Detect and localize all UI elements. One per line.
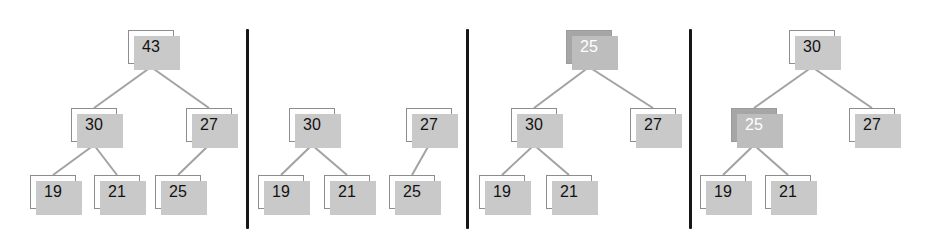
tree-node-21: 21 bbox=[765, 175, 811, 209]
divider-3 bbox=[689, 29, 692, 229]
tree-node-label: 27 bbox=[644, 116, 662, 133]
tree-node-label: 21 bbox=[108, 183, 126, 200]
tree-node-19: 19 bbox=[700, 175, 746, 209]
tree-edge-30-to-19 bbox=[281, 145, 312, 175]
tree-edge-25-to-27 bbox=[589, 67, 653, 108]
tree-node-21: 21 bbox=[94, 175, 140, 209]
tree-node-19: 19 bbox=[258, 175, 304, 209]
tree-node-25-highlighted: 25 bbox=[731, 108, 777, 142]
tree-node-25: 25 bbox=[389, 175, 435, 209]
tree-node-30: 30 bbox=[289, 108, 335, 142]
tree-edge-25-to-21 bbox=[754, 145, 788, 175]
tree-node-label: 30 bbox=[303, 116, 321, 133]
tree-node-30: 30 bbox=[511, 108, 557, 142]
tree-node-30: 30 bbox=[789, 30, 835, 64]
tree-node-label: 25 bbox=[169, 183, 187, 200]
tree-edge-30-to-21 bbox=[94, 145, 117, 175]
tree-node-label: 25 bbox=[745, 116, 763, 133]
tree-edge-30-to-21 bbox=[534, 145, 569, 175]
tree-edge-27-to-25 bbox=[178, 145, 209, 175]
tree-edge-27-to-25 bbox=[412, 145, 429, 175]
tree-node-label: 21 bbox=[779, 183, 797, 200]
divider-2 bbox=[466, 29, 469, 229]
tree-edge-43-to-27 bbox=[151, 67, 209, 108]
tree-edge-25-to-19 bbox=[723, 145, 754, 175]
tree-node-label: 19 bbox=[493, 183, 511, 200]
tree-node-label: 27 bbox=[863, 116, 881, 133]
divider-1 bbox=[246, 29, 249, 229]
tree-node-label: 21 bbox=[338, 183, 356, 200]
tree-node-21: 21 bbox=[324, 175, 370, 209]
tree-edge-30-to-25 bbox=[754, 67, 812, 108]
tree-edge-43-to-30 bbox=[94, 67, 151, 108]
tree-node-label: 30 bbox=[803, 38, 821, 55]
tree-node-label: 30 bbox=[525, 116, 543, 133]
tree-node-27: 27 bbox=[406, 108, 452, 142]
tree-edge-30-to-19 bbox=[53, 145, 94, 175]
tree-node-30: 30 bbox=[71, 108, 117, 142]
tree-node-27: 27 bbox=[186, 108, 232, 142]
tree-node-19: 19 bbox=[30, 175, 76, 209]
tree-node-label: 19 bbox=[44, 183, 62, 200]
tree-node-label: 43 bbox=[142, 38, 160, 55]
tree-node-25: 25 bbox=[155, 175, 201, 209]
tree-node-label: 25 bbox=[403, 183, 421, 200]
tree-node-label: 27 bbox=[420, 116, 438, 133]
tree-node-label: 27 bbox=[200, 116, 218, 133]
tree-node-27: 27 bbox=[630, 108, 676, 142]
heap-removal-figure: 4330271921253027192125253027192130252719… bbox=[0, 0, 935, 239]
tree-node-21: 21 bbox=[546, 175, 592, 209]
tree-node-label: 19 bbox=[272, 183, 290, 200]
tree-node-label: 21 bbox=[560, 183, 578, 200]
tree-edge-30-to-19 bbox=[502, 145, 534, 175]
tree-edge-30-to-27 bbox=[812, 67, 872, 108]
tree-node-27: 27 bbox=[849, 108, 895, 142]
tree-node-label: 19 bbox=[714, 183, 732, 200]
tree-node-25-highlighted: 25 bbox=[566, 30, 612, 64]
tree-edge-25-to-30 bbox=[534, 67, 589, 108]
tree-node-label: 30 bbox=[85, 116, 103, 133]
tree-node-43: 43 bbox=[128, 30, 174, 64]
tree-node-label: 25 bbox=[580, 38, 598, 55]
tree-node-19: 19 bbox=[479, 175, 525, 209]
tree-edge-30-to-21 bbox=[312, 145, 347, 175]
